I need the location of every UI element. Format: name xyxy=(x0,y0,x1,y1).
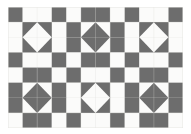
quilt-cell xyxy=(8,22,23,37)
quilt-cell xyxy=(52,98,67,113)
quilt-cell xyxy=(8,83,23,98)
quilt-cell xyxy=(139,68,154,83)
quilt-cell xyxy=(23,52,38,67)
quilt-cell xyxy=(52,52,67,67)
quilt-pattern-figure xyxy=(0,0,191,134)
quilt-cell xyxy=(52,113,67,128)
quilt-cell xyxy=(66,37,81,52)
quilt-cell xyxy=(168,83,183,98)
quilt-cell xyxy=(8,52,23,67)
quilt-cell xyxy=(110,7,125,22)
quilt-cell xyxy=(168,22,183,37)
quilt-cell xyxy=(52,68,67,83)
quilt-cell xyxy=(8,37,23,52)
quilt-cell xyxy=(168,68,183,83)
quilt-cell xyxy=(110,52,125,67)
quilt-cell xyxy=(168,37,183,52)
quilt-cell xyxy=(110,83,125,98)
quilt-cell xyxy=(37,113,52,128)
quilt-cell xyxy=(154,113,169,128)
quilt-cell xyxy=(8,7,23,22)
quilt-cell xyxy=(96,52,111,67)
quilt-cell xyxy=(110,37,125,52)
quilt-cell xyxy=(8,68,23,83)
quilt-cell xyxy=(168,52,183,67)
quilt-cell xyxy=(37,52,52,67)
quilt-cell xyxy=(66,52,81,67)
quilt-cell xyxy=(154,7,169,22)
quilt-pattern-canvas xyxy=(8,7,183,128)
quilt-cell xyxy=(66,22,81,37)
quilt-cell xyxy=(139,52,154,67)
quilt-cell xyxy=(66,113,81,128)
quilt-cell xyxy=(125,22,140,37)
quilt-cell xyxy=(168,113,183,128)
quilt-cell xyxy=(125,68,140,83)
quilt-cell xyxy=(37,7,52,22)
quilt-cell xyxy=(66,83,81,98)
quilt-cell xyxy=(96,7,111,22)
quilt-cell xyxy=(125,113,140,128)
quilt-cell xyxy=(37,68,52,83)
quilt-cell xyxy=(81,113,96,128)
quilt-cell xyxy=(125,98,140,113)
quilt-cell xyxy=(66,68,81,83)
quilt-cell xyxy=(66,7,81,22)
quilt-cell xyxy=(125,7,140,22)
quilt-cell xyxy=(168,98,183,113)
quilt-cell xyxy=(125,52,140,67)
quilt-cell xyxy=(110,22,125,37)
quilt-cell xyxy=(168,7,183,22)
quilt-cell xyxy=(139,7,154,22)
quilt-cell xyxy=(110,98,125,113)
quilt-cell xyxy=(81,68,96,83)
quilt-cell xyxy=(81,52,96,67)
quilt-cell xyxy=(110,68,125,83)
quilt-cell xyxy=(154,52,169,67)
quilt-cell xyxy=(96,68,111,83)
quilt-cell xyxy=(154,68,169,83)
quilt-cell xyxy=(66,98,81,113)
quilt-cell xyxy=(52,83,67,98)
quilt-cell xyxy=(81,7,96,22)
quilt-cell xyxy=(139,113,154,128)
quilt-cell xyxy=(52,7,67,22)
quilt-cell xyxy=(8,98,23,113)
quilt-pattern-panel xyxy=(8,7,183,128)
quilt-cell xyxy=(96,113,111,128)
quilt-cell xyxy=(125,37,140,52)
quilt-cell xyxy=(8,113,23,128)
quilt-cell xyxy=(52,22,67,37)
quilt-cell xyxy=(23,7,38,22)
quilt-cell xyxy=(110,113,125,128)
quilt-cell xyxy=(23,113,38,128)
quilt-cell xyxy=(125,83,140,98)
quilt-cell xyxy=(23,68,38,83)
quilt-cell xyxy=(52,37,67,52)
